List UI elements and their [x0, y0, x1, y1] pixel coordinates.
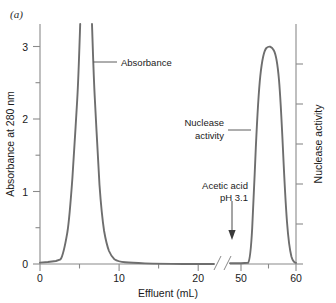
absorbance-callout-label: Absorbance [121, 57, 172, 68]
x-axis-title: Effluent (mL) [138, 287, 198, 299]
absorbance-curve-right [230, 47, 296, 264]
absorbance-curve-left [40, 24, 80, 263]
x-tick-label: 60 [290, 272, 302, 284]
x-tick-label: 20 [192, 272, 204, 284]
acetic-acid-callout-label-line1: Acetic acid [202, 180, 248, 191]
y-tick-label: 3 [22, 41, 28, 53]
acetic-acid-callout-label-line2: pH 3.1 [220, 192, 248, 203]
x-tick-labels: 0 10 20 50 60 [37, 272, 302, 284]
nuclease-activity-callout-label-line2: activity [195, 130, 224, 141]
y-axis-title: Absorbance at 280 nm [4, 91, 16, 197]
plot-svg: 0 10 20 50 60 0 1 2 3 Effluent (mL) Abso… [0, 0, 336, 303]
y-tick-labels: 0 1 2 3 [22, 41, 28, 271]
x-tick-label: 50 [235, 272, 247, 284]
left-axis [33, 24, 40, 264]
acetic-acid-arrow [228, 201, 235, 240]
right-axis [296, 24, 303, 264]
x-tick-label: 10 [113, 272, 125, 284]
nuclease-activity-callout-label-line1: Nuclease [184, 117, 224, 128]
y-tick-label: 1 [22, 186, 28, 198]
chromatography-figure: (a) [0, 0, 336, 303]
y2-axis-title: Nuclease activity [312, 104, 324, 184]
y-tick-label: 0 [22, 258, 28, 270]
x-tick-label: 0 [37, 272, 43, 284]
y-tick-label: 2 [22, 113, 28, 125]
